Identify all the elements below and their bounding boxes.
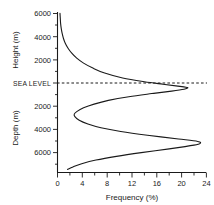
y-tick-label-6000-up: 6000 [34,9,51,18]
x-axis-ticks [58,173,207,178]
y-axis-ticks-lower [53,95,58,165]
x-tick-label-16: 16 [153,179,161,188]
frequency-curve [60,13,201,169]
y-tick-label-4000-dn: 4000 [34,125,51,134]
y-tick-labels-lower: 2000 4000 6000 [34,102,51,157]
chart-svg: 0 4 8 12 16 20 24 6000 4000 2000 2000 40… [0,0,214,205]
y-tick-labels-upper: 6000 4000 2000 [34,9,51,64]
x-axis-title: Frequency (%) [106,193,159,202]
y-tick-label-2000-up: 2000 [34,56,51,65]
y-tick-label-6000-dn: 6000 [34,148,51,157]
y-axis-title-lower: Depth (m) [11,110,20,146]
y-tick-label-2000-dn: 2000 [34,102,51,111]
x-tick-label-4: 4 [80,179,84,188]
hypsographic-curve-chart: 0 4 8 12 16 20 24 6000 4000 2000 2000 40… [0,0,214,205]
x-tick-label-0: 0 [55,179,59,188]
sea-level-label: SEA LEVEL [13,80,51,87]
x-tick-label-12: 12 [128,179,136,188]
x-tick-label-20: 20 [177,179,185,188]
x-tick-label-24: 24 [202,179,210,188]
y-axis-ticks-upper [53,14,58,84]
x-tick-label-8: 8 [105,179,109,188]
y-tick-label-4000-up: 4000 [34,33,51,42]
y-axis-title-upper: Height (m) [11,31,20,69]
axes-group [57,12,206,173]
x-tick-labels: 0 4 8 12 16 20 24 [55,179,210,188]
